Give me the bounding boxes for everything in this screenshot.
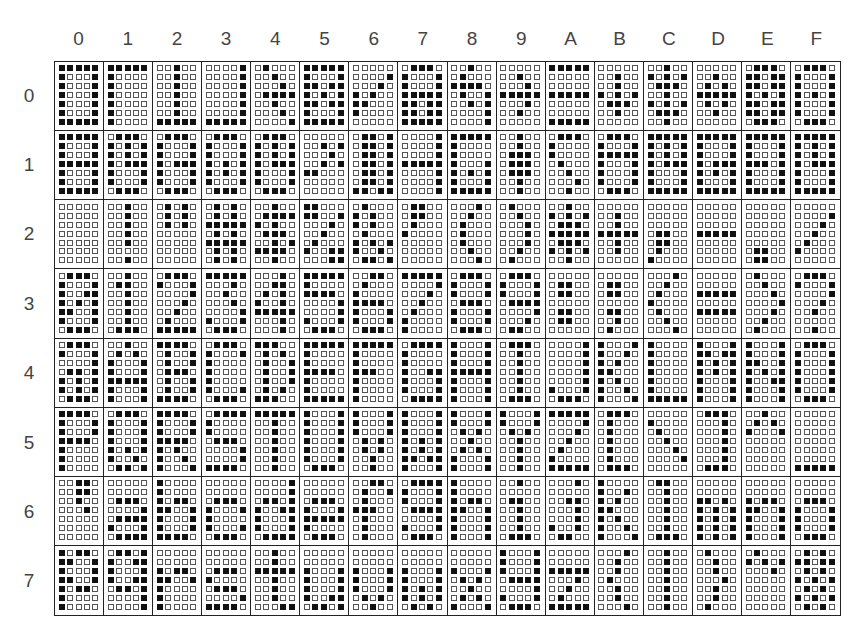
dot-off xyxy=(697,568,703,574)
dot-off xyxy=(436,204,442,210)
dot-off xyxy=(713,456,719,462)
dot-off xyxy=(615,170,621,176)
dot-off xyxy=(451,92,457,98)
dot-on xyxy=(84,342,90,348)
dot-on xyxy=(402,74,408,80)
dot-on xyxy=(223,465,229,471)
dot-off xyxy=(468,318,474,324)
dot-off xyxy=(525,143,531,149)
dot-on xyxy=(607,577,613,583)
dot-off xyxy=(165,282,171,288)
dot-off xyxy=(84,525,90,531)
dot-on xyxy=(795,351,801,357)
dot-on xyxy=(566,213,572,219)
dot-on xyxy=(231,222,237,228)
dot-off xyxy=(419,152,425,158)
dot-on xyxy=(362,489,368,495)
dot-off xyxy=(771,248,777,254)
dot-on xyxy=(648,351,654,357)
dot-matrix xyxy=(500,273,541,335)
dot-off xyxy=(534,65,540,71)
dot-matrix xyxy=(648,134,689,196)
dot-on xyxy=(255,300,261,306)
dot-matrix xyxy=(746,480,787,542)
dot-off xyxy=(534,318,540,324)
dot-off xyxy=(476,396,482,402)
dot-on xyxy=(338,595,344,601)
dot-off xyxy=(321,360,327,366)
dot-off xyxy=(754,516,760,522)
dot-off xyxy=(174,525,180,531)
dot-on xyxy=(517,396,523,402)
dot-on xyxy=(338,507,344,513)
dot-off xyxy=(795,222,801,228)
dot-off xyxy=(624,327,630,333)
dot-on xyxy=(174,134,180,140)
dot-off xyxy=(263,456,269,462)
dot-off xyxy=(206,396,212,402)
dot-off xyxy=(820,516,826,522)
dot-matrix xyxy=(157,550,198,612)
dot-off xyxy=(697,273,703,279)
dot-off xyxy=(558,204,564,210)
dot-on xyxy=(615,152,621,158)
dot-on xyxy=(92,170,98,176)
dot-on xyxy=(468,65,474,71)
dot-on xyxy=(730,378,736,384)
dot-on xyxy=(829,516,835,522)
dot-off xyxy=(713,342,719,348)
dot-on xyxy=(795,516,801,522)
character-cell xyxy=(546,477,595,546)
dot-on xyxy=(329,465,335,471)
dot-on xyxy=(223,438,229,444)
dot-off xyxy=(566,429,572,435)
dot-on xyxy=(746,429,752,435)
dot-off xyxy=(353,456,359,462)
dot-off xyxy=(76,351,82,357)
dot-off xyxy=(476,231,482,237)
dot-off xyxy=(656,204,662,210)
dot-off xyxy=(812,420,818,426)
dot-off xyxy=(190,456,196,462)
dot-off xyxy=(598,465,604,471)
dot-off xyxy=(133,465,139,471)
dot-on xyxy=(664,480,670,486)
dot-on xyxy=(59,134,65,140)
dot-off xyxy=(231,387,237,393)
dot-off xyxy=(705,534,711,540)
dot-on xyxy=(125,465,131,471)
dot-on xyxy=(598,161,604,167)
dot-off xyxy=(190,83,196,89)
dot-off xyxy=(664,369,670,375)
dot-on xyxy=(214,327,220,333)
dot-on xyxy=(304,213,310,219)
dot-off xyxy=(338,152,344,158)
dot-on xyxy=(664,161,670,167)
dot-off xyxy=(558,248,564,254)
dot-on xyxy=(289,309,295,315)
dot-off xyxy=(460,465,466,471)
dot-off xyxy=(730,240,736,246)
dot-off xyxy=(84,170,90,176)
dot-off xyxy=(84,369,90,375)
dot-off xyxy=(804,411,810,417)
dot-on xyxy=(436,282,442,288)
dot-off xyxy=(468,161,474,167)
dot-on xyxy=(664,65,670,71)
dot-off xyxy=(427,204,433,210)
dot-off xyxy=(76,101,82,107)
dot-off xyxy=(656,360,662,366)
dot-matrix xyxy=(451,550,492,612)
dot-on xyxy=(190,516,196,522)
dot-on xyxy=(362,369,368,375)
dot-on xyxy=(697,516,703,522)
dot-on xyxy=(92,143,98,149)
dot-off xyxy=(746,420,752,426)
dot-off xyxy=(575,300,581,306)
dot-off xyxy=(632,369,638,375)
dot-off xyxy=(681,351,687,357)
dot-off xyxy=(157,188,163,194)
dot-on xyxy=(165,534,171,540)
dot-off xyxy=(312,480,318,486)
dot-on xyxy=(125,550,131,556)
